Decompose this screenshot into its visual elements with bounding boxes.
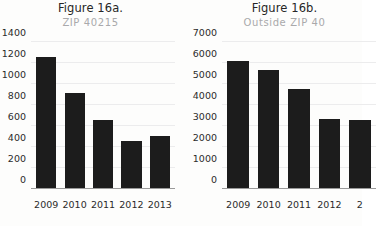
bar-slot xyxy=(117,42,145,189)
figure-16a-x-tick-label: 2013 xyxy=(146,198,174,212)
figure-16b-y-tick-label: 0 xyxy=(211,175,217,185)
figure-16b-title: Figure 16b. xyxy=(181,2,362,15)
figure-16a-x-axis-line xyxy=(31,188,175,189)
figure-16a: Figure 16a. ZIP 40215 020040060080010001… xyxy=(0,0,181,226)
figure-16a-y-tick-label: 1200 xyxy=(2,49,26,59)
figure-16b-y-tick-label: 1000 xyxy=(193,154,217,164)
figure-16b-plot-area: 01000200030004000500060007000 2009201020… xyxy=(181,36,362,226)
figure-16b-y-tick-label: 4000 xyxy=(193,91,217,101)
figure-16a-bars xyxy=(31,42,175,189)
figure-16a-y-tick-label: 200 xyxy=(8,154,26,164)
figure-16a-y-tick-label: 0 xyxy=(20,175,26,185)
bar-slot xyxy=(60,42,88,189)
bar-2013 xyxy=(150,136,170,189)
figure-16a-plot: 0200400600800100012001400 xyxy=(31,42,175,189)
figure-16b-x-tick-label: 2012 xyxy=(314,198,344,212)
bar-2009 xyxy=(36,57,56,189)
figure-16a-x-axis-labels: 20092010201120122013 xyxy=(31,198,175,212)
figure-16b-subtitle: Outside ZIP 40 xyxy=(181,16,362,29)
figure-16a-x-tick-label: 2009 xyxy=(32,198,60,212)
bar-2012 xyxy=(319,119,341,189)
figure-16a-subtitle: ZIP 40215 xyxy=(0,16,181,29)
bar-2010 xyxy=(65,93,85,189)
bar-2010 xyxy=(258,70,280,189)
figure-16a-y-tick-label: 800 xyxy=(8,91,26,101)
figure-16a-x-tick-label: 2010 xyxy=(60,198,88,212)
figure-16b-x-tick-label: 2011 xyxy=(284,198,314,212)
bar-2009 xyxy=(227,61,249,189)
bar-slot xyxy=(345,42,375,189)
bar-slot xyxy=(89,42,117,189)
figure-16a-y-tick-label: 1000 xyxy=(2,70,26,80)
figure-16b-y-tick-label: 3000 xyxy=(193,112,217,122)
bar-2011 xyxy=(288,89,310,189)
figure-16b-bars xyxy=(222,42,376,189)
figure-16b-x-tick-label: 2010 xyxy=(253,198,283,212)
bar-slot xyxy=(314,42,344,189)
figure-16a-plot-area: 0200400600800100012001400 20092010201120… xyxy=(0,36,181,226)
figure-16a-x-tick-label: 2012 xyxy=(117,198,145,212)
figure-16b-y-tick-label: 7000 xyxy=(193,28,217,38)
figure-16a-y-tick-label: 600 xyxy=(8,112,26,122)
figure-16b-x-tick-label: 2 xyxy=(345,198,375,212)
figure-16a-y-tick-label: 400 xyxy=(8,133,26,143)
bar-2012 xyxy=(121,141,141,189)
bar-2011 xyxy=(93,120,113,189)
figure-16b-x-tick-label: 2009 xyxy=(223,198,253,212)
figure-16a-y-tick-label: 1400 xyxy=(2,28,26,38)
figure-16b-y-tick-label: 5000 xyxy=(193,70,217,80)
figure-16a-x-tick-label: 2011 xyxy=(89,198,117,212)
figure-16b: Figure 16b. Outside ZIP 40 0100020003000… xyxy=(181,0,362,226)
figure-16b-x-axis-line xyxy=(222,188,376,189)
bar-slot xyxy=(253,42,283,189)
bar-slot xyxy=(32,42,60,189)
figure-16b-x-axis-labels: 20092010201120122 xyxy=(222,198,376,212)
figure-16b-y-tick-label: 2000 xyxy=(193,133,217,143)
bar-slot xyxy=(223,42,253,189)
figure-16a-title: Figure 16a. xyxy=(0,2,181,15)
figure-16b-plot: 01000200030004000500060007000 xyxy=(222,42,376,189)
bar-2 xyxy=(349,120,371,189)
bar-slot xyxy=(146,42,174,189)
figure-16b-y-tick-label: 6000 xyxy=(193,49,217,59)
bar-slot xyxy=(284,42,314,189)
